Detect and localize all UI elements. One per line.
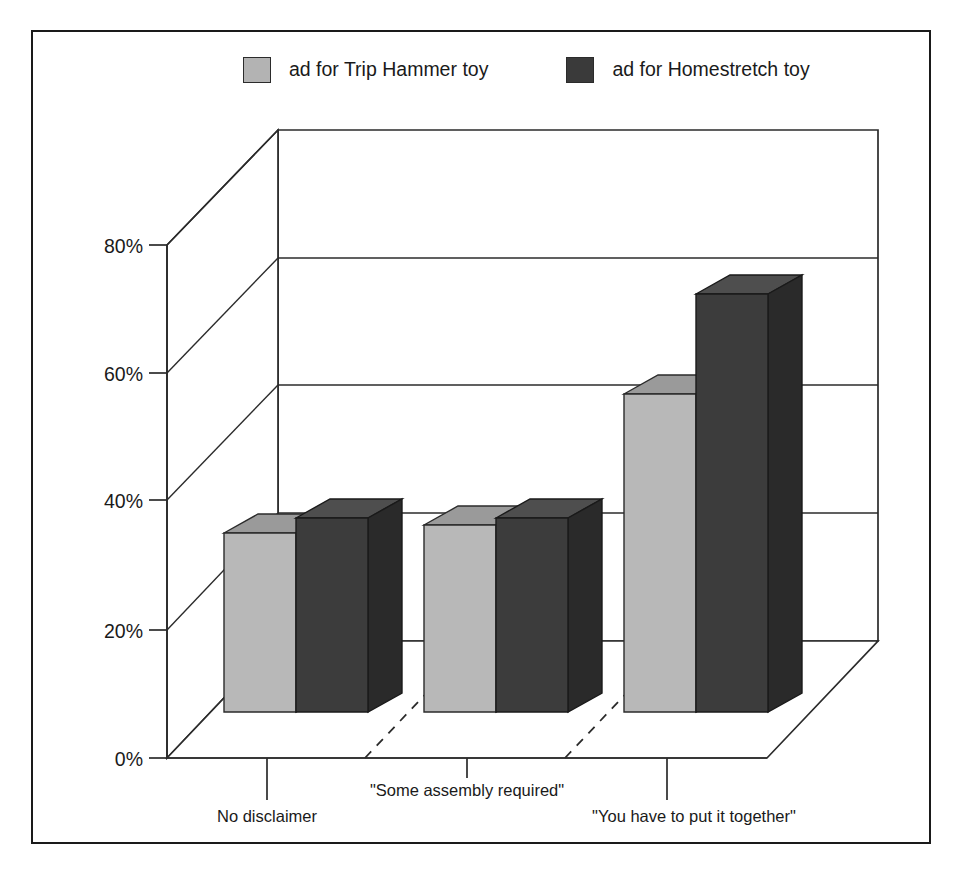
bar-chart-3d: 80% 60% 40% 20% 0% xyxy=(0,0,968,878)
bar-homestretch-no-disclaimer[interactable] xyxy=(296,499,402,712)
y-tick-label-60: 60% xyxy=(104,363,143,385)
bar-group-some-assembly-required xyxy=(424,499,602,712)
y-axis-ticks xyxy=(149,245,167,758)
y-tick-label-0: 0% xyxy=(115,748,143,770)
x-category-label-you-have-to-put-it-together: "You have to put it together" xyxy=(592,807,796,825)
x-category-label-some-assembly-required: "Some assembly required" xyxy=(370,781,564,799)
y-tick-label-40: 40% xyxy=(104,490,143,512)
y-tick-label-20: 20% xyxy=(104,620,143,642)
x-category-label-no-disclaimer: No disclaimer xyxy=(217,807,317,825)
bar-homestretch-some-assembly-required[interactable] xyxy=(496,499,602,712)
bar-group-no-disclaimer xyxy=(224,499,402,712)
bar-homestretch-you-have-to-put-it-together[interactable] xyxy=(696,275,802,712)
chart-page: ad for Trip Hammer toy ad for Homestretc… xyxy=(0,0,968,878)
y-tick-label-80: 80% xyxy=(104,235,143,257)
